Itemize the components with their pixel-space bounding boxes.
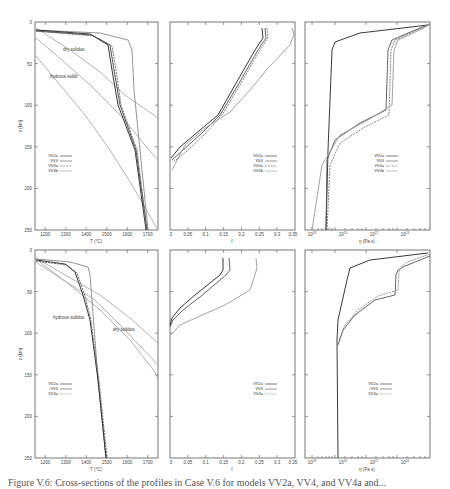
legend-r1c2: VV2a VV4 VV4a VV4b xyxy=(253,153,277,173)
svg-text:1300: 1300 xyxy=(61,460,72,465)
x-axis-label-r1c2: f xyxy=(231,239,233,244)
svg-text:1020: 1020 xyxy=(339,231,348,237)
svg-text:0.2: 0.2 xyxy=(238,460,245,465)
svg-text:VV4a: VV4a xyxy=(48,391,59,396)
svg-text:1200: 1200 xyxy=(40,460,51,465)
svg-text:0.25: 0.25 xyxy=(255,460,264,465)
svg-text:1200: 1200 xyxy=(40,232,51,237)
svg-text:1300: 1300 xyxy=(61,232,72,237)
x-axis-label-r2c3: η (Pa s) xyxy=(359,467,375,472)
svg-text:VV4a: VV4a xyxy=(253,391,264,396)
y-tick-labels: 0 50 100 150 200 250 0 50 100 150 200 25… xyxy=(24,20,32,461)
svg-text:VV4b: VV4b xyxy=(374,168,385,173)
svg-text:200: 200 xyxy=(24,414,32,419)
svg-text:0: 0 xyxy=(170,232,173,237)
svg-text:0.35: 0.35 xyxy=(289,460,298,465)
svg-text:1700: 1700 xyxy=(143,232,154,237)
svg-text:250: 250 xyxy=(24,456,32,461)
svg-text:VV4a: VV4a xyxy=(368,391,379,396)
figure-caption: Figure V.6: Cross-sections of the profil… xyxy=(8,477,450,488)
figure: 0 50 100 150 200 250 0 50 100 150 200 25… xyxy=(0,0,450,489)
x-axis-label-r2c2: f xyxy=(231,467,233,472)
svg-text:150: 150 xyxy=(24,145,32,150)
svg-text:1600: 1600 xyxy=(122,460,133,465)
legend-r2c2: VV2a VV4 VV4a xyxy=(253,381,277,396)
curves-r1c2 xyxy=(171,28,294,170)
legend-r1c3: VV2a VV4 VV4a VV4b xyxy=(374,153,398,173)
curves-r1c3 xyxy=(312,24,430,230)
plot-frame-r2c3 xyxy=(305,250,430,458)
svg-text:1018: 1018 xyxy=(308,231,317,237)
svg-text:0.35: 0.35 xyxy=(289,232,298,237)
svg-text:250: 250 xyxy=(24,228,32,233)
annotation-dry-solidus-r2: dry solidus xyxy=(113,327,135,332)
x-tick-labels-col3: 1018 1020 1022 1024 1018 1020 1022 1024 xyxy=(308,231,410,465)
svg-text:50: 50 xyxy=(27,62,33,67)
svg-text:VV4b: VV4b xyxy=(48,168,59,173)
svg-text:0.1: 0.1 xyxy=(203,460,210,465)
y-axis-label-r2: z (km) xyxy=(18,347,23,360)
svg-text:150: 150 xyxy=(24,373,32,378)
svg-text:1400: 1400 xyxy=(81,232,92,237)
curves-r2c3 xyxy=(337,253,430,458)
annotations: dry solidus hydrous solidi hydrous solid… xyxy=(50,47,135,332)
legend-r2c1: VV2a VV4 VV4a xyxy=(48,381,72,396)
legend-r2c3: VV2a VV4 VV4a xyxy=(368,381,392,396)
svg-text:1024: 1024 xyxy=(401,231,410,237)
curves-r2c1 xyxy=(36,258,158,458)
svg-text:0.2: 0.2 xyxy=(238,232,245,237)
annotation-hydrous-solidus-r2: hydrous solidus xyxy=(53,315,85,320)
svg-text:0.3: 0.3 xyxy=(274,232,281,237)
svg-text:1500: 1500 xyxy=(102,460,113,465)
svg-text:0: 0 xyxy=(29,248,32,253)
y-axis-label-r1: z (km) xyxy=(18,119,23,132)
svg-text:1022: 1022 xyxy=(370,231,379,237)
svg-text:200: 200 xyxy=(24,186,32,191)
x-axis-label-r1c3: η (Pa s) xyxy=(359,239,375,244)
svg-text:50: 50 xyxy=(27,290,33,295)
svg-text:0.25: 0.25 xyxy=(255,232,264,237)
curves-r2c2 xyxy=(170,258,257,335)
x-tick-labels-col2: 0 0.05 0.1 0.15 0.2 0.25 0.3 0.35 0 0.05… xyxy=(170,232,298,465)
svg-text:1022: 1022 xyxy=(370,459,379,465)
svg-text:100: 100 xyxy=(24,331,32,336)
x-axis-label-r2c1: T (°C) xyxy=(90,467,102,472)
plot-frame-r2c2 xyxy=(170,250,295,458)
annotation-dry-solidus-r1: dry solidus xyxy=(63,47,85,52)
legend-r1c1: VV2a VV4 VV4a VV4b xyxy=(48,153,72,173)
svg-text:1018: 1018 xyxy=(308,459,317,465)
svg-text:1024: 1024 xyxy=(401,459,410,465)
svg-text:0.05: 0.05 xyxy=(184,232,193,237)
curves-r1c1 xyxy=(36,28,158,230)
svg-text:0: 0 xyxy=(170,460,173,465)
svg-text:0.3: 0.3 xyxy=(274,460,281,465)
annotation-hydrous-solidi-r1: hydrous solidi xyxy=(50,74,78,79)
svg-text:1700: 1700 xyxy=(143,460,154,465)
x-axis-label-r1c1: T (°C) xyxy=(90,239,102,244)
svg-text:100: 100 xyxy=(24,103,32,108)
svg-text:VV4b: VV4b xyxy=(253,168,264,173)
svg-text:0.15: 0.15 xyxy=(219,232,228,237)
svg-text:0.05: 0.05 xyxy=(184,460,193,465)
svg-text:1600: 1600 xyxy=(122,232,133,237)
svg-text:1400: 1400 xyxy=(81,460,92,465)
svg-text:1500: 1500 xyxy=(102,232,113,237)
svg-text:0.1: 0.1 xyxy=(203,232,210,237)
plot-frame-r1c2 xyxy=(170,22,295,230)
svg-text:0.15: 0.15 xyxy=(219,460,228,465)
svg-text:1020: 1020 xyxy=(339,459,348,465)
svg-text:0: 0 xyxy=(29,20,32,25)
